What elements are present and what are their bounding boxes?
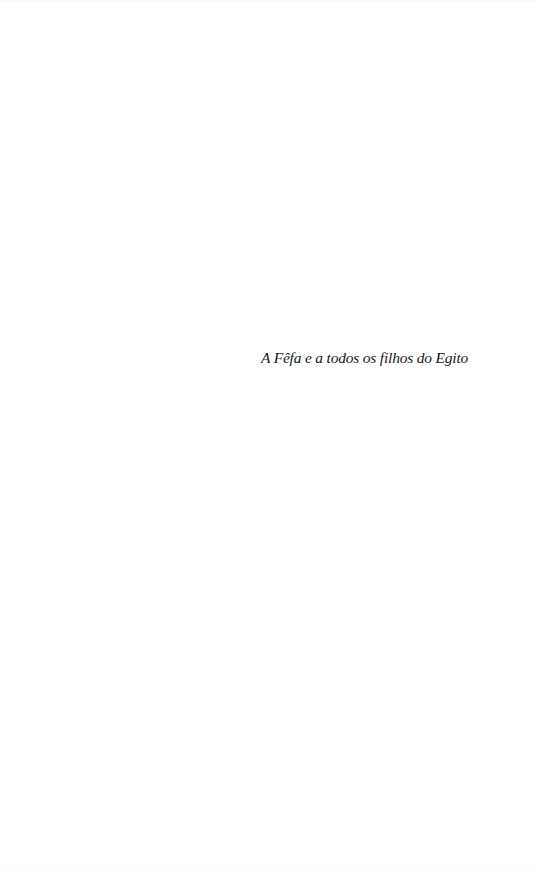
book-page: A Fêfa e a todos os filhos do Egito [0, 0, 539, 869]
dedication-text: A Fêfa e a todos os filhos do Egito [261, 349, 468, 367]
